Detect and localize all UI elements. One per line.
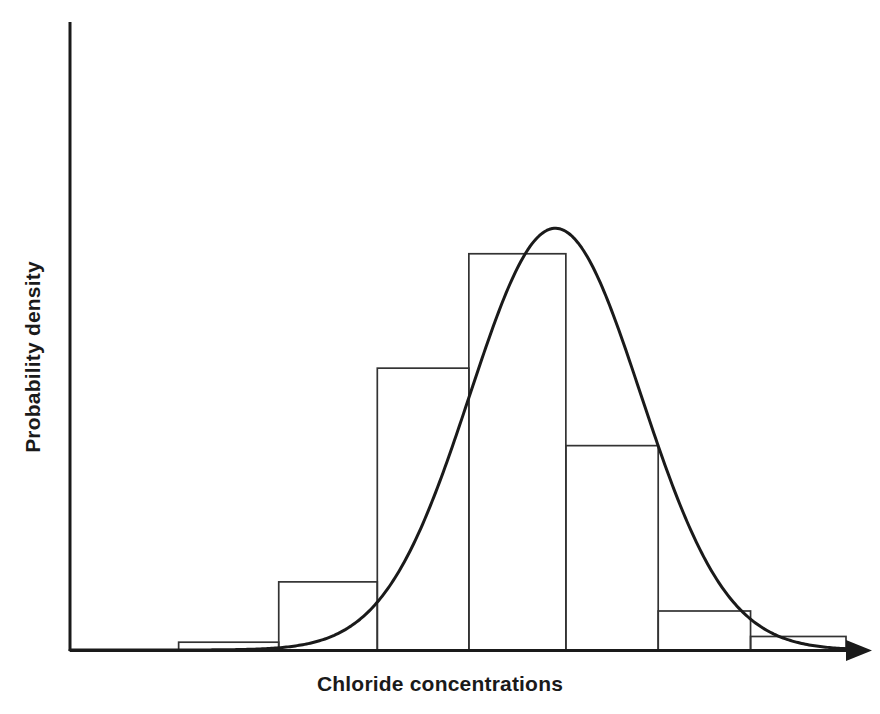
x-axis-arrow-icon [846, 640, 872, 661]
histogram-bar [469, 254, 566, 650]
histogram-plot [0, 0, 880, 714]
y-axis-title: Probability density [0, 0, 66, 714]
histogram-bars [179, 254, 846, 650]
y-axis-title-text: Probability density [21, 261, 45, 453]
x-axis-title: Chloride concentrations [0, 672, 880, 696]
histogram-bar [377, 368, 469, 650]
histogram-bar [566, 446, 658, 650]
normal-density-curve [70, 228, 846, 650]
chart-figure: Probability density Chloride concentrati… [0, 0, 880, 714]
histogram-bar [658, 611, 750, 650]
